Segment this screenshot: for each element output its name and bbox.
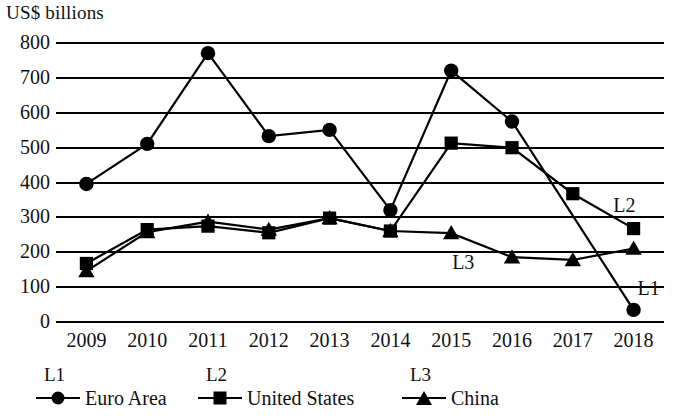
x-tick-label-2011: 2011	[188, 329, 227, 351]
annotation-L2: L2	[613, 195, 635, 215]
data-point-L3-2016	[504, 249, 520, 263]
y-tick-label-600: 600	[2, 102, 50, 122]
x-tick-label-2013: 2013	[310, 329, 350, 351]
data-point-L2-2017	[566, 187, 579, 200]
y-tick-label-200: 200	[2, 241, 50, 261]
legend-label-united-states: United States	[247, 388, 354, 408]
x-tick-label-2015: 2015	[431, 329, 471, 351]
data-point-L1-2012	[262, 129, 276, 143]
legend-entry-euro-area[interactable]: Euro Area	[36, 388, 167, 408]
series-lines	[56, 42, 664, 321]
data-point-L3-2018	[625, 240, 641, 254]
x-tick-label-2012: 2012	[249, 329, 289, 351]
chart-legend: L1Euro AreaL2United StatesL3China	[0, 365, 676, 419]
data-point-L1-2011	[201, 46, 215, 60]
square-marker-icon-glyph	[214, 392, 227, 405]
y-tick-label-500: 500	[2, 137, 50, 157]
y-tick-label-100: 100	[2, 276, 50, 296]
annotation-L1: L1	[638, 278, 660, 298]
data-point-L2-2018	[627, 222, 640, 235]
x-tick-label-2018: 2018	[614, 329, 654, 351]
legend-label-euro-area: Euro Area	[85, 388, 167, 408]
gridline-0	[56, 321, 664, 323]
data-point-L1-2014	[383, 203, 397, 217]
data-point-L1-2018	[626, 303, 640, 317]
legend-label-china: China	[451, 388, 499, 408]
legend-tag-L3: L3	[410, 365, 431, 384]
data-point-L1-2015	[444, 63, 458, 77]
y-tick-label-300: 300	[2, 206, 50, 226]
plot-area: L1L2L3	[56, 42, 664, 321]
data-point-L2-2016	[505, 141, 518, 154]
data-point-L1-2009	[79, 177, 93, 191]
data-point-L1-2010	[140, 137, 154, 151]
y-tick-label-400: 400	[2, 172, 50, 192]
circle-marker-icon-glyph	[52, 392, 65, 405]
y-axis-title: US$ billions	[6, 2, 104, 24]
triangle-marker-icon-glyph	[416, 391, 432, 405]
annotation-L3: L3	[452, 252, 474, 272]
triangle-marker-icon	[402, 388, 446, 408]
x-tick-label-2014: 2014	[370, 329, 410, 351]
x-tick-label-2017: 2017	[553, 329, 593, 351]
data-point-L1-2016	[505, 114, 519, 128]
data-point-L1-2013	[322, 123, 336, 137]
x-tick-label-2009: 2009	[66, 329, 106, 351]
y-tick-label-0: 0	[2, 311, 50, 331]
data-point-L2-2015	[445, 137, 458, 150]
y-tick-label-700: 700	[2, 67, 50, 87]
square-marker-icon	[198, 388, 242, 408]
series-line-L3	[86, 218, 633, 271]
series-line-L1	[86, 53, 633, 310]
circle-marker-icon	[36, 388, 80, 408]
series-L3	[78, 210, 642, 277]
legend-tag-L1: L1	[44, 365, 65, 384]
x-tick-label-2010: 2010	[127, 329, 167, 351]
y-tick-label-800: 800	[2, 32, 50, 52]
x-tick-label-2016: 2016	[492, 329, 532, 351]
legend-tag-L2: L2	[206, 365, 227, 384]
legend-entry-united-states[interactable]: United States	[198, 388, 354, 408]
legend-entry-china[interactable]: China	[402, 388, 499, 408]
series-L2	[80, 137, 640, 271]
series-line-L2	[86, 143, 633, 263]
chart-figure: US$ billions L1L2L3 01002003004005006007…	[0, 0, 676, 419]
